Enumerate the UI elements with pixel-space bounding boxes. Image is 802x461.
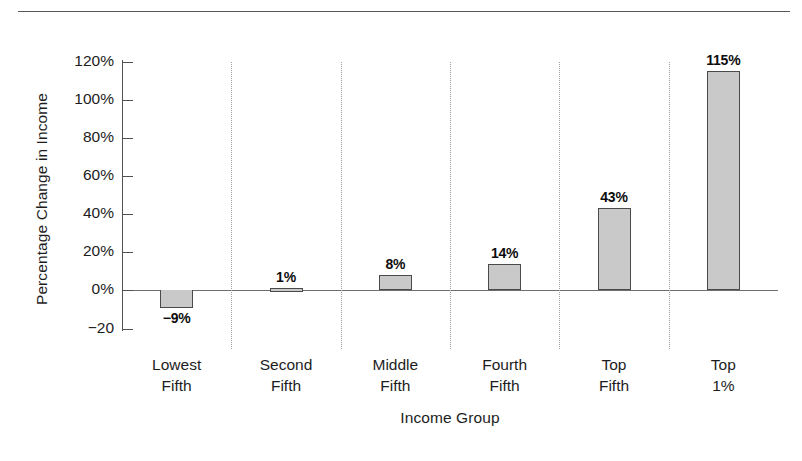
- y-axis-tick-label: 0%: [36, 280, 114, 300]
- bar: [707, 71, 740, 290]
- y-axis-tick-label: 100%: [36, 90, 114, 110]
- y-axis-tick: [122, 62, 133, 63]
- bar-value-label: 14%: [460, 245, 550, 261]
- y-axis-tick-label-text: 40%: [36, 204, 114, 222]
- vertical-gridline: [559, 62, 560, 349]
- bar-value-label: 43%: [569, 189, 659, 205]
- y-axis-tick: [122, 290, 133, 291]
- y-axis-tick-label: 20%: [36, 242, 114, 262]
- y-axis-tick: [122, 100, 133, 101]
- x-axis-title: Income Group: [122, 409, 778, 427]
- y-axis-tick-label-text: 80%: [36, 128, 114, 146]
- bar: [598, 208, 631, 290]
- vertical-gridline: [231, 62, 232, 349]
- bar: [160, 290, 193, 307]
- bar-value-label: 1%: [241, 269, 331, 285]
- y-axis-tick: [122, 138, 133, 139]
- y-axis-tick-label-text: 0%: [36, 280, 114, 298]
- y-axis-tick-label: −20: [36, 319, 114, 339]
- x-axis-category-label-line2: 1%: [653, 376, 793, 397]
- bar-value-label: −9%: [132, 310, 222, 326]
- bar-value-label: 8%: [350, 256, 440, 272]
- y-axis-tick-label: 80%: [36, 128, 114, 148]
- x-axis-category-label: Top1%: [653, 355, 793, 396]
- y-axis-tick-label: 120%: [36, 52, 114, 72]
- y-axis-tick-label-text: −20: [36, 319, 114, 337]
- y-axis-tick-label: 60%: [36, 166, 114, 186]
- vertical-gridline: [669, 62, 670, 349]
- bar-value-label: 115%: [678, 52, 768, 68]
- y-axis-tick-label-text: 20%: [36, 242, 114, 260]
- vertical-gridline: [341, 62, 342, 349]
- y-axis-tick-label-text: 100%: [36, 90, 114, 108]
- x-axis-category-label-line1: Top: [653, 355, 793, 376]
- top-horizontal-rule: [18, 11, 790, 12]
- y-axis-tick: [122, 329, 133, 330]
- y-axis-tick: [122, 214, 133, 215]
- y-axis-tick: [122, 176, 133, 177]
- bar: [379, 275, 412, 290]
- chart-figure: Percentage Change in Income Income Group…: [0, 0, 802, 461]
- y-axis-tick-label: 40%: [36, 204, 114, 224]
- vertical-gridline: [450, 62, 451, 349]
- y-axis-tick: [122, 252, 133, 253]
- bar: [270, 288, 303, 292]
- bar: [488, 264, 521, 291]
- y-axis-tick-label-text: 60%: [36, 166, 114, 184]
- y-axis-tick-label-text: 120%: [36, 52, 114, 70]
